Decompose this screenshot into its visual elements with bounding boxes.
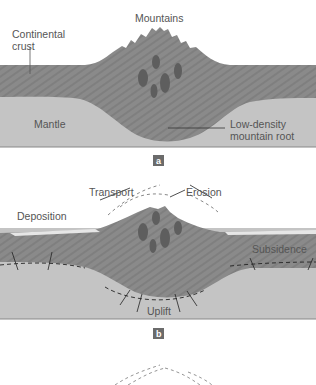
root-label: Low-density [230, 118, 287, 130]
mantle-label: Mantle [34, 118, 66, 130]
svg-text:crust: crust [12, 40, 35, 52]
panel-c-erosion-dashes [115, 365, 212, 385]
subsidence-label: Subsidence [252, 243, 307, 255]
svg-text:mountain root: mountain root [230, 130, 294, 142]
mountains-label: Mountains [135, 12, 183, 24]
uplift-label: Uplift [147, 305, 171, 317]
panel-b: Transport Erosion Deposition Subsidence … [0, 185, 316, 339]
transport-label: Transport [89, 186, 134, 198]
deposition-label: Deposition [17, 210, 67, 222]
continental-crust-label: Continental [12, 28, 65, 40]
panel-a: Mountains Continental crust Mantle Low-d… [0, 12, 316, 166]
isostasy-diagram: Mountains Continental crust Mantle Low-d… [0, 0, 316, 385]
erosion-label: Erosion [186, 186, 222, 198]
svg-text:b: b [156, 329, 162, 339]
